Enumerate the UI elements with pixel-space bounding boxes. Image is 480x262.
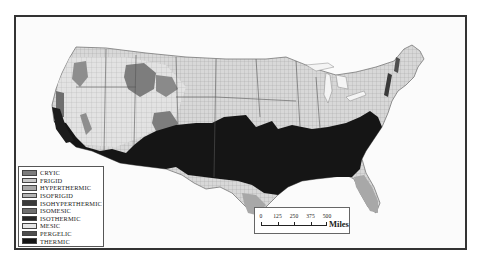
legend-label: ISOFRIGID: [40, 192, 73, 199]
legend-item-isohyperthermic: ISOHYPERTHERMIC: [22, 199, 101, 207]
legend-swatch: [22, 223, 37, 229]
map-frame: CRYIC FRIGID HYPERTHERMIC ISOFRIGID ISOH…: [14, 15, 467, 250]
scale-bar: 0 125 250 375 500 Miles: [254, 207, 350, 234]
legend-label: ISOHYPERTHERMIC: [40, 200, 102, 207]
legend-item-pergelic: PERGELIC: [22, 230, 101, 238]
legend-swatch: [22, 200, 37, 206]
legend-swatch: [22, 193, 37, 199]
legend-swatch: [22, 170, 37, 176]
legend-item-thermic: THERMIC: [22, 237, 101, 245]
legend-swatch: [22, 238, 37, 244]
legend-label: CRYIC: [40, 169, 60, 176]
legend-item-cryic: CRYIC: [22, 169, 101, 177]
legend-label: MESIC: [40, 222, 60, 229]
scale-unit: Miles: [329, 219, 349, 229]
legend-item-isothermic: ISOTHERMIC: [22, 215, 101, 223]
scale-line: [261, 225, 327, 226]
map-legend: CRYIC FRIGID HYPERTHERMIC ISOFRIGID ISOH…: [18, 166, 104, 247]
legend-label: ISOMESIC: [40, 207, 71, 214]
scale-tick-label: 0: [260, 213, 263, 219]
legend-label: HYPERTHERMIC: [40, 184, 91, 191]
legend-label: ISOTHERMIC: [40, 215, 81, 222]
legend-swatch: [22, 216, 37, 222]
scale-tick-label: 125: [273, 213, 281, 219]
legend-item-hyperthermic: HYPERTHERMIC: [22, 184, 101, 192]
legend-label: THERMIC: [40, 238, 70, 245]
legend-item-frigid: FRIGID: [22, 177, 101, 185]
lake-huron: [336, 75, 348, 89]
legend-swatch: [22, 231, 37, 237]
legend-swatch: [22, 178, 37, 184]
legend-label: PERGELIC: [40, 230, 72, 237]
hyperthermic-florida: [354, 175, 378, 213]
legend-item-isomesic: ISOMESIC: [22, 207, 101, 215]
legend-item-mesic: MESIC: [22, 222, 101, 230]
legend-item-isofrigid: ISOFRIGID: [22, 192, 101, 200]
scale-tick-label: 375: [306, 213, 314, 219]
legend-swatch: [22, 185, 37, 191]
legend-swatch: [22, 208, 37, 214]
legend-label: FRIGID: [40, 177, 62, 184]
scale-tick-label: 250: [290, 213, 298, 219]
